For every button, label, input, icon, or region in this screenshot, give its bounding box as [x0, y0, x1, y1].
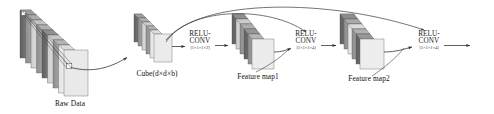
source-cube-marker [21, 11, 25, 15]
caption-raw-data: Raw Data [37, 99, 103, 108]
operation-2-dims: [1×1×1×4] [286, 46, 326, 51]
cube-stack [134, 14, 172, 62]
diagram-graphics [0, 0, 494, 114]
operation-label-3: RELU- CONV [1×1×1×4] [409, 31, 449, 50]
operation-3-dims: [1×1×1×4] [409, 46, 449, 51]
feature-map1-stack [232, 14, 274, 69]
arrow-featuremap2-to-op3 [384, 47, 412, 52]
caption-cube: Cube(d×d×b) [124, 69, 190, 78]
operation-label-2: RELU- CONV [1×1×1×4] [286, 31, 326, 50]
raw-data-stack [20, 10, 88, 96]
operation-1-dims: [1×1×1×2] [180, 46, 220, 51]
caption-feature-map2: Feature map2 [333, 74, 405, 83]
figure-canvas: RELU- CONV [1×1×1×2] RELU- CONV [1×1×1×4… [0, 0, 494, 114]
caption-feature-map1: Feature map1 [225, 72, 291, 81]
operation-label-1: RELU- CONV [1×1×1×2] [180, 31, 220, 50]
